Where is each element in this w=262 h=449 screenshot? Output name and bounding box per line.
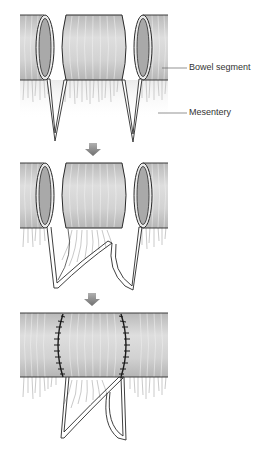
mesentery-vessels — [23, 227, 166, 266]
right-bowel-stump — [134, 163, 168, 228]
mesentery-flaps — [47, 227, 142, 290]
panel-3 — [20, 313, 168, 440]
label-bowel-segment: Bowel segment — [189, 62, 251, 72]
left-bowel-stump — [20, 163, 54, 228]
label-mesentery: Mesentery — [189, 107, 231, 117]
panel-1 — [20, 15, 187, 142]
left-bowel-stump — [20, 15, 54, 80]
arrow-down-icon — [85, 143, 101, 156]
mesentery-vessels — [23, 377, 166, 408]
middle-bowel-segment — [62, 15, 126, 80]
anastomosed-bowel — [20, 313, 168, 377]
panel-2 — [20, 163, 168, 290]
mesentery-shade — [20, 80, 168, 120]
arrow-down-icon — [84, 293, 100, 306]
middle-bowel-segment — [62, 163, 126, 228]
right-bowel-stump — [134, 15, 168, 80]
